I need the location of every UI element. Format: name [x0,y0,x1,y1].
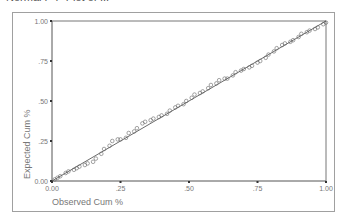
data-point [193,93,197,97]
x-axis-title: Observed Cum % [52,197,123,207]
y-tick [50,140,52,142]
x-tick [188,181,190,183]
x-tick [120,181,122,183]
y-tick [50,60,52,62]
x-tick-label: 1.00 [319,185,333,192]
data-point [94,157,98,161]
data-point [217,78,221,82]
data-point [135,126,139,130]
data-point [91,160,95,164]
data-point [110,139,114,143]
y-tick-label: 1.00 [34,18,48,25]
data-point [86,162,90,166]
y-tick-label: .75 [38,58,48,65]
y-tick-label: 0.00 [34,178,48,185]
data-point [143,120,147,124]
y-tick-label: .50 [38,98,48,105]
y-tick [50,20,52,22]
x-tick-label: .75 [253,185,263,192]
y-tick [50,100,52,102]
y-axis-title: Expected Cum % [22,109,32,179]
data-point [127,131,131,135]
x-tick [51,181,53,183]
x-tick-label: .50 [184,185,194,192]
data-points [53,21,328,181]
data-point [209,83,213,87]
x-tick-label: .25 [116,185,126,192]
x-tick [257,181,259,183]
axis-labels: 0.000.00.25.25.50.50.75.751.001.00Observ… [22,18,333,208]
pp-plot: 0.000.00.25.25.50.50.75.751.001.00Observ… [0,0,346,221]
x-tick [325,181,327,183]
data-point [152,117,156,121]
y-tick-label: .25 [38,138,48,145]
x-tick-label: 0.00 [45,185,59,192]
